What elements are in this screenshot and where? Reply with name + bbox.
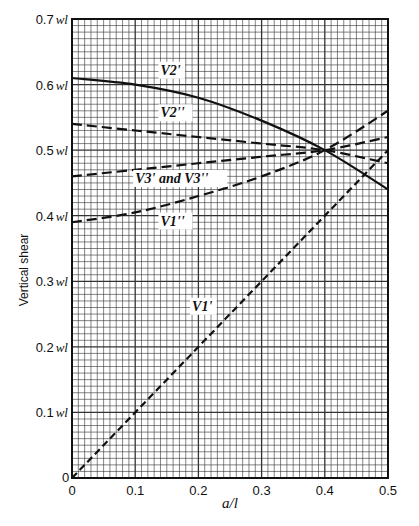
- x-axis-label: a/l: [222, 495, 238, 511]
- y-axis-ticks: 0.1wl0.2wl0.3wl0.4wl0.5wl0.6wl0.7wl: [36, 12, 69, 420]
- series-annotations: V2'V2''V3' and V3''V1''V1': [133, 62, 227, 315]
- series-annotation: V2': [160, 63, 180, 78]
- x-tick-label: 0: [68, 483, 75, 498]
- x-tick-label: 0.1: [126, 483, 144, 498]
- origin-label: 0: [62, 470, 69, 485]
- x-tick-label: 0.2: [189, 483, 207, 498]
- y-tick-label: 0.6wl: [36, 78, 69, 93]
- y-tick-label: 0.7wl: [36, 12, 69, 27]
- x-tick-label: 0.5: [379, 483, 397, 498]
- x-tick-label: 0.4: [316, 483, 334, 498]
- y-axis-label: Vertical shear: [17, 234, 31, 307]
- y-tick-label: 0.1wl: [36, 405, 69, 420]
- grid: [72, 19, 388, 478]
- y-tick-label: 0.5wl: [36, 143, 69, 158]
- vertical-shear-chart: 0.1wl0.2wl0.3wl0.4wl0.5wl0.6wl0.7wl 00.1…: [0, 0, 419, 526]
- series-annotation: V1': [192, 299, 212, 314]
- series-annotation: V1'': [160, 214, 184, 229]
- y-tick-label: 0.4wl: [36, 209, 69, 224]
- series-annotation: V2'': [160, 105, 184, 120]
- y-tick-label: 0.2wl: [36, 340, 69, 355]
- series-annotation: V3' and V3'': [135, 171, 208, 186]
- x-tick-label: 0.3: [253, 483, 271, 498]
- y-tick-label: 0.3wl: [36, 274, 69, 289]
